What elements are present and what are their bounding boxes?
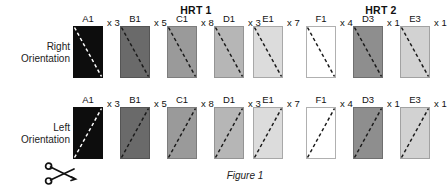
scissors-cut-icon: [44, 161, 78, 191]
swatch-label-right-d3: D3: [353, 14, 383, 24]
swatch-label-right-d1: D1: [214, 14, 244, 24]
swatch-multiplier-left-c1: x 8: [201, 99, 214, 109]
swatch-multiplier-left-a1: x 3: [107, 99, 120, 109]
swatch-multiplier-right-c1: x 8: [201, 18, 214, 28]
swatch-label-left-d3: D3: [353, 95, 383, 105]
swatch-rect-left-d3: [353, 107, 383, 159]
swatch-rect-right-e1: [253, 26, 283, 78]
swatch-rect-left-b1: [120, 107, 150, 159]
swatch-label-left-e3: E3: [400, 95, 430, 105]
swatch-multiplier-right-a1: x 3: [107, 18, 120, 28]
swatch-multiplier-left-f1: x 4: [340, 99, 353, 109]
swatch-rect-right-b1: [120, 26, 150, 78]
row-label-right-line1: Right: [0, 41, 70, 53]
swatch-rect-left-c1: [167, 107, 197, 159]
swatch-rect-left-e3: [400, 107, 430, 159]
swatch-label-right-f1: F1: [306, 14, 336, 24]
swatch-label-right-b1: B1: [120, 14, 150, 24]
row-label-left-orientation: Left Orientation: [0, 122, 70, 145]
figure-caption: Figure 1: [227, 170, 264, 181]
swatch-rect-right-d3: [353, 26, 383, 78]
swatch-rect-right-f1: [306, 26, 336, 78]
swatch-label-left-a1: A1: [73, 95, 103, 105]
swatch-label-right-a1: A1: [73, 14, 103, 24]
swatch-rect-right-c1: [167, 26, 197, 78]
swatch-multiplier-left-e1: x 7: [287, 99, 300, 109]
swatch-label-right-e1: E1: [253, 14, 283, 24]
swatch-rect-left-f1: [306, 107, 336, 159]
swatch-label-right-e3: E3: [400, 14, 430, 24]
swatch-label-left-f1: F1: [306, 95, 336, 105]
swatch-multiplier-right-b1: x 5: [154, 18, 167, 28]
swatch-multiplier-right-e3: x 1: [434, 18, 447, 28]
row-label-left-line1: Left: [0, 122, 70, 134]
swatch-label-left-e1: E1: [253, 95, 283, 105]
row-label-left-line2: Orientation: [0, 134, 70, 146]
swatch-multiplier-left-b1: x 5: [154, 99, 167, 109]
swatch-multiplier-right-d3: x 1: [387, 18, 400, 28]
swatch-label-left-d1: D1: [214, 95, 244, 105]
swatch-multiplier-right-f1: x 4: [340, 18, 353, 28]
swatch-rect-right-d1: [214, 26, 244, 78]
swatch-label-right-c1: C1: [167, 14, 197, 24]
swatch-multiplier-right-e1: x 7: [287, 18, 300, 28]
swatch-rect-right-e3: [400, 26, 430, 78]
row-label-right-line2: Orientation: [0, 53, 70, 65]
swatch-label-left-b1: B1: [120, 95, 150, 105]
swatch-rect-left-e1: [253, 107, 283, 159]
swatch-label-left-c1: C1: [167, 95, 197, 105]
swatch-rect-right-a1: [73, 26, 103, 78]
swatch-rect-left-d1: [214, 107, 244, 159]
swatch-multiplier-left-d3: x 1: [387, 99, 400, 109]
swatch-multiplier-left-e3: x 1: [434, 99, 447, 109]
swatch-rect-left-a1: [73, 107, 103, 159]
row-label-right-orientation: Right Orientation: [0, 41, 70, 64]
